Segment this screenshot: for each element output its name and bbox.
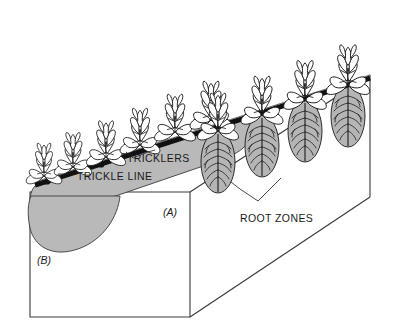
label-panel-b: (B) <box>37 254 51 266</box>
root-zone <box>201 131 235 193</box>
root-zone <box>245 115 279 177</box>
label-tricklers: TRICKLERS <box>127 152 190 164</box>
plant <box>26 143 62 184</box>
label-root-zones: ROOT ZONES <box>240 212 313 224</box>
leader-root-zones <box>231 182 258 201</box>
root-zones-group <box>201 85 365 193</box>
root-zone <box>331 85 365 147</box>
plant <box>155 94 196 141</box>
plant <box>54 132 91 175</box>
label-panel-a: (A) <box>163 206 177 218</box>
label-trickle-line: TRICKLE LINE <box>77 170 152 182</box>
trickle-irrigation-figure: TRICKLERS TRICKLE LINE ROOT ZONES (A) (B… <box>0 0 396 331</box>
plant <box>120 108 160 154</box>
diagram-canvas: TRICKLERS TRICKLE LINE ROOT ZONES (A) (B… <box>0 0 396 331</box>
leader-root-zones <box>258 178 281 201</box>
root-zone <box>288 100 322 162</box>
